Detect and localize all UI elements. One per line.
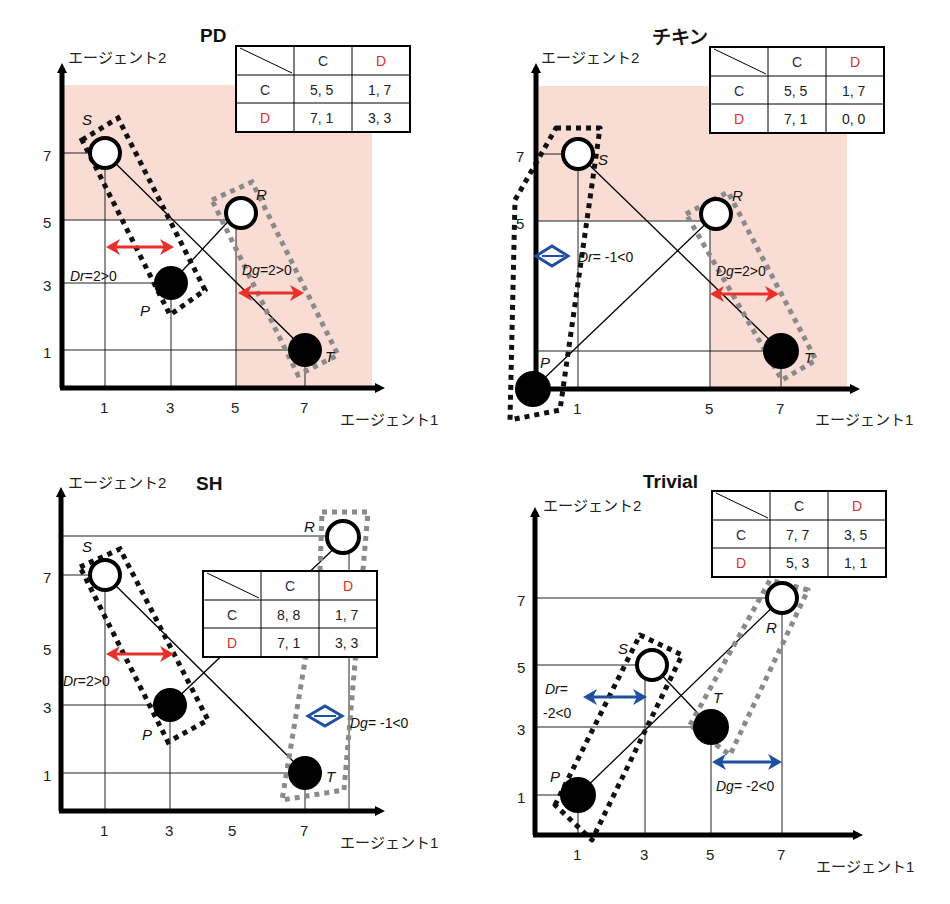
row-header-c: C <box>227 607 237 623</box>
point-s <box>90 560 120 590</box>
x-tick: 7 <box>300 399 308 416</box>
col-header-c: C <box>792 54 802 70</box>
payoff-cell: 3, 5 <box>844 527 868 543</box>
point-r <box>226 198 256 228</box>
x-tick: 1 <box>573 846 581 863</box>
x-tick: 3 <box>165 822 173 839</box>
point-p <box>515 371 551 407</box>
point-label-s: S <box>82 111 92 128</box>
dr-annotation: Dr=2>0 <box>70 268 117 284</box>
x-tick: 7 <box>300 822 308 839</box>
point-r <box>701 199 731 229</box>
point-label-t: T <box>713 689 724 706</box>
row-header-d: D <box>227 635 237 651</box>
point-s <box>637 650 667 680</box>
point-t <box>693 709 729 745</box>
x-axis-label: エージェント1 <box>815 411 913 428</box>
col-header-c: C <box>318 53 328 69</box>
y-axis-label: エージェント2 <box>541 49 639 66</box>
panel-title: チキン <box>652 27 708 48</box>
x-tick: 3 <box>166 399 174 416</box>
payoff-cell: 1, 1 <box>844 555 868 571</box>
dr-double-arrow-icon <box>583 689 647 705</box>
y-tick: 3 <box>43 699 51 716</box>
point-label-p: P <box>540 354 550 371</box>
y-tick: 1 <box>517 789 525 806</box>
point-label-r: R <box>732 187 743 204</box>
x-axis-label: エージェント1 <box>340 834 438 851</box>
dr-annotation: Dr=2>0 <box>63 673 110 689</box>
point-label-r: R <box>766 619 777 636</box>
point-label-s: S <box>598 151 608 168</box>
col-header-d: D <box>852 498 862 514</box>
payoff-table: C D C 7, 7 3, 5 D 5, 3 1, 1 <box>712 491 886 577</box>
y-tick: 5 <box>43 641 51 658</box>
y-tick: 3 <box>43 277 51 294</box>
point-label-s: S <box>618 640 628 657</box>
row-header-d: D <box>734 111 744 127</box>
panel-pd: S R P T Dr=2>0 Dg=2>0 1 3 5 7 1 3 5 7 エー… <box>43 25 438 428</box>
y-tick: 7 <box>516 148 524 165</box>
x-tick: 5 <box>231 399 239 416</box>
panel-title: Trivial <box>643 471 698 492</box>
y-axis-label: エージェント2 <box>68 474 166 491</box>
dr-annotation: Dr= <box>545 681 568 697</box>
dr-annotation-line2: -2<0 <box>543 705 572 721</box>
x-tick: 3 <box>640 846 648 863</box>
x-axis-label: エージェント1 <box>340 411 438 428</box>
y-tick: 1 <box>43 344 51 361</box>
point-p <box>560 777 596 813</box>
x-tick: 7 <box>777 846 785 863</box>
panel-chicken: S R P T Dr= -1<0 Dg=2>0 1 5 7 5 7 エージェント… <box>510 27 913 428</box>
point-label-r: R <box>256 186 267 203</box>
col-header-c: C <box>285 578 295 594</box>
point-t <box>288 333 322 367</box>
x-tick: 5 <box>705 400 713 417</box>
point-label-t: T <box>326 768 337 785</box>
y-tick: 5 <box>43 214 51 231</box>
payoff-cell: 7, 7 <box>786 527 810 543</box>
point-label-p: P <box>550 768 560 785</box>
point-t <box>763 333 799 369</box>
payoff-cell: 7, 1 <box>310 110 334 126</box>
point-p <box>154 266 188 300</box>
x-tick: 5 <box>228 822 236 839</box>
dg-annotation: Dg= -2<0 <box>716 778 775 794</box>
payoff-cell: 5, 5 <box>310 82 334 98</box>
point-p <box>153 688 187 722</box>
dg-annotation: Dg= -1<0 <box>350 715 409 731</box>
payoff-table: C D C 5, 5 1, 7 D 7, 1 3, 3 <box>236 46 410 132</box>
point-t <box>288 756 322 790</box>
col-header-c: C <box>794 498 804 514</box>
panel-title: PD <box>200 25 226 46</box>
payoff-cell: 1, 7 <box>335 607 359 623</box>
row-header-d: D <box>260 110 270 126</box>
x-tick: 1 <box>573 400 581 417</box>
dr-double-arrow-icon <box>106 646 174 662</box>
dr-double-arrow-icon <box>536 246 568 266</box>
col-header-d: D <box>343 578 353 594</box>
panel-title: SH <box>196 473 222 494</box>
row-header-d: D <box>736 555 746 571</box>
x-tick: 7 <box>776 400 784 417</box>
x-tick: 1 <box>100 822 108 839</box>
x-tick: 1 <box>100 399 108 416</box>
point-r <box>327 521 359 553</box>
point-label-p: P <box>142 726 152 743</box>
payoff-cell: 5, 3 <box>786 555 810 571</box>
game-diagrams-figure: S R P T Dr=2>0 Dg=2>0 1 3 5 7 1 3 5 7 エー… <box>0 0 950 904</box>
point-s <box>90 138 120 168</box>
panel-sh: S R P T Dr=2>0 Dg= -1<0 1 3 5 7 1 3 5 7 … <box>43 473 438 851</box>
row-header-c: C <box>736 527 746 543</box>
payoff-cell: 1, 7 <box>368 82 392 98</box>
payoff-table: C D C 5, 5 1, 7 D 7, 1 0, 0 <box>710 47 884 133</box>
point-label-r: R <box>304 518 315 535</box>
col-header-d: D <box>376 53 386 69</box>
point-r <box>767 583 797 613</box>
x-tick: 5 <box>706 846 714 863</box>
y-axis-label: エージェント2 <box>543 497 641 514</box>
payoff-cell: 1, 7 <box>842 83 866 99</box>
row-header-c: C <box>260 82 270 98</box>
point-label-s: S <box>82 538 92 555</box>
y-axis-label: エージェント2 <box>68 49 166 66</box>
